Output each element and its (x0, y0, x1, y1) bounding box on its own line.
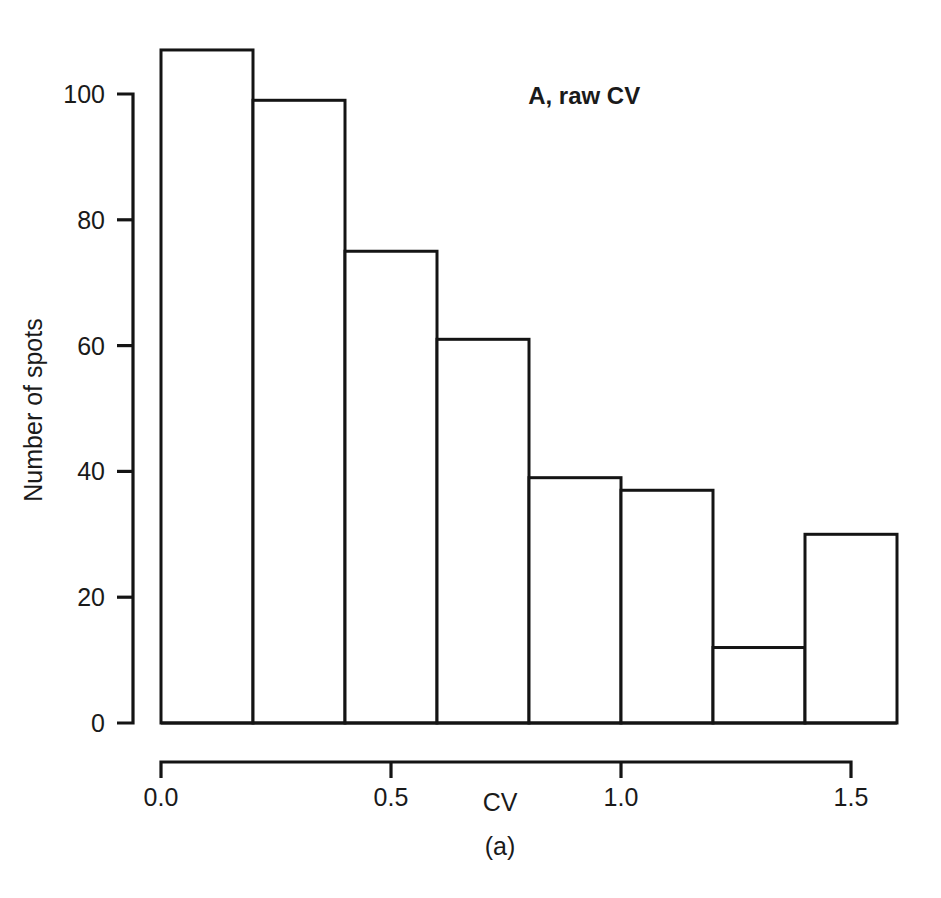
histogram-bars (161, 50, 897, 723)
y-tick-label: 100 (63, 80, 105, 108)
histogram-bar (621, 490, 713, 723)
x-tick-label: 1.5 (834, 783, 869, 811)
histogram-bar (805, 534, 897, 723)
y-tick-label: 40 (77, 457, 105, 485)
y-axis-ticks (117, 220, 133, 597)
x-tick-label: 0.0 (144, 783, 179, 811)
histogram-figure: 020406080100 0.00.51.01.5 A, raw CV CV N… (0, 0, 941, 898)
y-tick-label: 80 (77, 206, 105, 234)
histogram-bar (161, 50, 253, 723)
histogram-bar (529, 478, 621, 723)
x-axis-line (161, 762, 851, 778)
y-tick-label: 60 (77, 332, 105, 360)
panel-title: A, raw CV (528, 82, 640, 109)
histogram-bar (253, 100, 345, 723)
x-tick-label: 1.0 (604, 783, 639, 811)
y-tick-label: 20 (77, 583, 105, 611)
histogram-bar (713, 648, 805, 723)
histogram-bar (345, 251, 437, 723)
y-axis-line (117, 94, 133, 723)
figure-caption: (a) (485, 832, 516, 860)
y-axis-tick-labels: 020406080100 (63, 80, 105, 737)
x-axis-title: CV (483, 788, 518, 816)
histogram-bar (437, 339, 529, 723)
x-axis-ticks (391, 762, 621, 778)
y-tick-label: 0 (91, 709, 105, 737)
x-tick-label: 0.5 (374, 783, 409, 811)
histogram-svg: 020406080100 0.00.51.01.5 A, raw CV CV N… (0, 0, 941, 898)
y-axis-title: Number of spots (19, 318, 47, 501)
